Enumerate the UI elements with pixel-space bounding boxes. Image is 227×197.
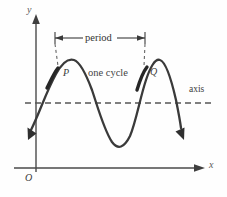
curve-arrowhead-right — [176, 128, 185, 141]
y-axis — [32, 14, 40, 172]
axis-label: axis — [189, 85, 204, 95]
x-axis-arrowhead — [194, 164, 205, 172]
period-arrowhead-right — [137, 35, 145, 41]
trigonometry-wave-figure: y x O P Q period one cycle axis — [0, 0, 227, 197]
y-axis-label: y — [27, 5, 31, 15]
dashed-dropline-p — [55, 44, 58, 66]
point-p-label: P — [63, 68, 69, 78]
dashed-dropline-q — [144, 44, 145, 66]
one-cycle-label: one cycle — [88, 68, 128, 79]
x-axis — [14, 164, 205, 172]
figure-canvas — [0, 0, 227, 197]
x-axis-label: x — [209, 160, 213, 170]
period-arrowhead-left — [55, 35, 63, 41]
y-axis-arrowhead — [32, 14, 40, 24]
period-label: period — [85, 33, 112, 44]
curve-highlight-p — [47, 68, 58, 88]
origin-label: O — [25, 173, 32, 183]
point-q-label: Q — [150, 67, 157, 77]
